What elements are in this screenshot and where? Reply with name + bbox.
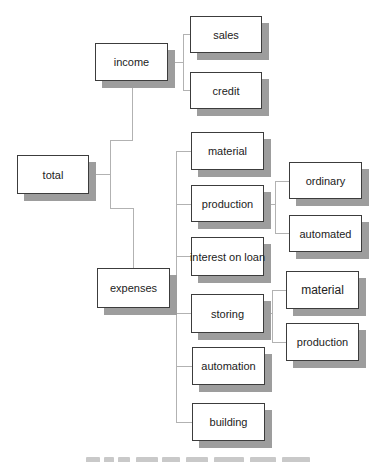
connector-root-spine [110,140,111,209]
connector-total [89,174,110,175]
node-building: building [192,403,265,441]
node-label: total [43,169,64,181]
connector-sales [183,34,190,35]
node-production: production [191,185,264,222]
connector-storing-production [272,342,286,343]
node-label: income [114,56,149,68]
node-label: sales [213,29,239,41]
node-credit: credit [190,72,262,109]
node-sales: sales [190,16,262,53]
node-label: material [208,145,247,157]
connector-to-income [110,140,133,141]
connector-to-expenses [110,208,134,209]
connector-building [176,422,192,423]
connector-ordinary [275,181,289,182]
node-storing-production: production [286,323,359,361]
node-label: automated [300,228,352,240]
node-income: income [95,43,168,81]
node-expenses: expenses [97,268,170,308]
node-label: interest on loan [190,251,265,263]
node-label: building [210,416,248,428]
node-material: material [191,132,264,170]
node-total: total [17,155,89,194]
connector-income-spine [183,34,184,91]
node-label: expenses [110,282,157,294]
connector-storing-material [272,290,286,291]
tree-diagram: total income sales credit expenses mater… [0,0,380,462]
node-storing: storing [191,294,264,333]
connector-storing [176,313,191,314]
connector-production [176,204,191,205]
node-label: production [297,336,348,348]
connector-income-drop [132,81,133,141]
node-label: ordinary [306,175,346,187]
connector-production-out [264,204,275,205]
connector-storing-spine [272,290,273,343]
node-label: material [301,283,344,297]
node-ordinary: ordinary [289,162,362,199]
node-label: automation [201,360,255,372]
node-storing-material: material [286,271,359,309]
node-automated: automated [289,215,362,252]
node-interest-on-loan: interest on loan [191,237,264,276]
connector-automated [275,233,289,234]
node-label: credit [213,85,240,97]
connector-expenses-drop [133,208,134,268]
connector-interest [176,256,191,257]
node-automation: automation [192,347,265,385]
node-label: storing [211,308,244,320]
node-label: production [202,198,253,210]
connector-income-out [168,62,183,63]
connector-expenses-spine [176,151,177,423]
connector-storing-out [264,313,272,314]
connector-automation [176,366,192,367]
connector-credit [183,90,190,91]
connector-production-spine [275,181,276,234]
connector-material [176,151,191,152]
